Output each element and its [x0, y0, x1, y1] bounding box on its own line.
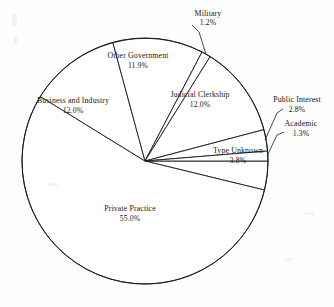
slice-label-private-practice-pct: 55.0%: [120, 214, 141, 223]
leader-line-academic: [267, 132, 284, 156]
slice-label-judicial-clerkship-name: Judicial Clerkship: [170, 90, 229, 99]
slice-label-military-name: Military: [195, 9, 222, 18]
slice-label-private-practice-name: Private Practice: [104, 204, 156, 213]
slice-label-type-unknown-name: Type Unknown: [213, 146, 263, 155]
slice-label-academic-name: Academic: [285, 119, 318, 128]
slice-label-public-interest-pct: 2.8%: [289, 105, 306, 114]
slice-label-business-industry-pct: 12.0%: [63, 106, 84, 115]
slice-label-business-industry-name: Business and Industry: [37, 96, 109, 105]
slice-label-other-government-pct: 11.9%: [128, 61, 149, 70]
slice-label-military-pct: 1.2%: [200, 18, 217, 27]
leader-line-public-interest: [265, 109, 283, 140]
pie-chart-figure: Military 1.2% Other Government 11.9% Bus…: [0, 0, 334, 307]
slice-label-academic-pct: 1.3%: [293, 129, 310, 138]
slice-label-public-interest-name: Public Interest: [273, 95, 321, 104]
slice-label-other-government-name: Other Government: [107, 51, 169, 60]
slice-label-judicial-clerkship-pct: 12.0%: [190, 100, 211, 109]
slice-label-type-unknown-pct: 3.8%: [230, 156, 247, 165]
pie-chart-canvas: Military 1.2% Other Government 11.9% Bus…: [0, 0, 334, 307]
